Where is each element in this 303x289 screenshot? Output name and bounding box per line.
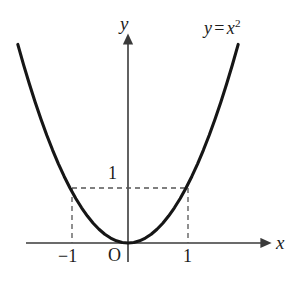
x-tick-label-1: 1 [183, 247, 192, 265]
y-tick-label-1: 1 [108, 164, 117, 182]
y-axis-label: y [120, 14, 128, 33]
equation-base: x [227, 18, 235, 38]
origin-label: O [108, 246, 121, 264]
x-axis-label: x [276, 233, 284, 252]
parabola-figure: y x y=x2 1 O −1 1 [0, 0, 303, 289]
equation-exponent: 2 [235, 17, 241, 29]
equation-operator: = [212, 18, 226, 38]
x-tick-label-negative-1: −1 [58, 247, 77, 265]
plot-canvas [0, 0, 303, 289]
curve-equation-label: y=x2 [204, 19, 241, 37]
